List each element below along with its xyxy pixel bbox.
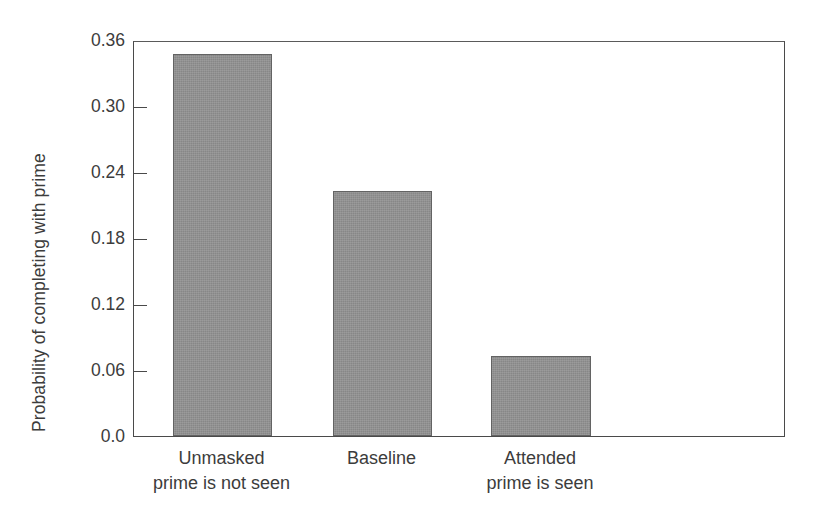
- y-axis-tick-label: 0.24: [45, 162, 125, 183]
- y-axis-tick-mark: [134, 173, 147, 174]
- y-axis-tick-labels: 0.00.060.120.180.240.300.36: [45, 41, 125, 437]
- y-axis-tick-mark: [134, 371, 147, 372]
- x-axis-label-line: prime is not seen: [72, 471, 372, 496]
- y-axis-tick-mark: [134, 305, 147, 306]
- y-axis-tick-label: 0.06: [45, 360, 125, 381]
- x-axis-label-line: prime is seen: [390, 471, 690, 496]
- plot-area: [133, 41, 785, 437]
- y-axis-tick-mark: [134, 239, 147, 240]
- bar: [173, 54, 272, 436]
- y-axis-tick-label: 0.36: [45, 30, 125, 51]
- bar: [333, 191, 432, 436]
- x-axis-category-label: Attendedprime is seen: [390, 446, 690, 496]
- y-axis-tick-label: 0.12: [45, 294, 125, 315]
- x-axis-label-line: Attended: [504, 448, 576, 468]
- bar-chart-figure: Probability of completing with prime 0.0…: [0, 0, 815, 517]
- y-axis-tick-mark: [134, 107, 147, 108]
- y-axis-tick-label: 0.30: [45, 96, 125, 117]
- bar: [491, 356, 591, 436]
- y-axis-tick-label: 0.18: [45, 228, 125, 249]
- y-axis-tick-label: 0.0: [45, 426, 125, 447]
